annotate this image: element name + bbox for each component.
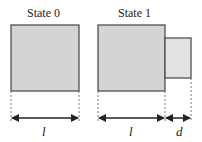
state-1-extra-label: d	[176, 124, 183, 140]
state-1-box	[98, 25, 165, 91]
state-0-width-label: l	[42, 124, 46, 140]
state-0-box	[11, 25, 79, 91]
state-1-width-label: l	[129, 124, 133, 140]
state-1-extension-box	[165, 38, 191, 78]
diagram	[0, 0, 202, 142]
